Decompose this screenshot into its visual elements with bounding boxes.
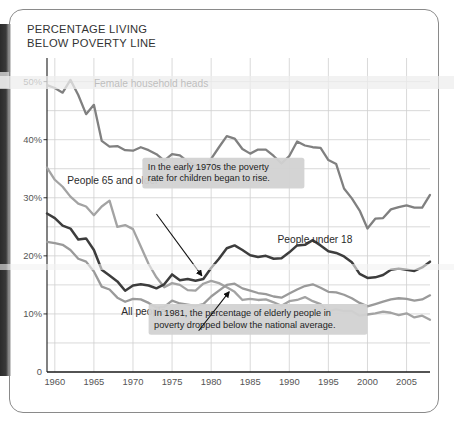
annotation-text: poverty dropped below the national avera… (154, 320, 335, 330)
x-axis-tick-label: 1980 (201, 376, 222, 387)
series-line (47, 80, 430, 229)
y-axis-tick-label: 10% (23, 308, 42, 319)
x-axis-tick-label: 1975 (162, 376, 183, 387)
x-axis-tick-label: 1995 (318, 376, 339, 387)
series-line (47, 168, 430, 320)
x-axis-tick-label: 1960 (44, 376, 65, 387)
series-line (47, 213, 430, 290)
series-line (47, 242, 430, 308)
chart-screenshot: PERCENTAGE LIVING BELOW POVERTY LINE 010… (0, 0, 454, 426)
series-label: Female household heads (94, 78, 208, 89)
x-axis-tick-label: 1985 (240, 376, 261, 387)
y-axis-tick-label: 20% (23, 250, 42, 261)
y-axis-tick-label: 30% (23, 192, 42, 203)
x-axis-tick-label: 2000 (357, 376, 378, 387)
x-axis-tick-label: 2005 (396, 376, 417, 387)
annotation-text: rate for children began to rise. (148, 173, 270, 183)
x-axis-tick-label: 1965 (83, 376, 104, 387)
y-axis-tick-label: 40% (23, 134, 42, 145)
annotation-text: In 1981, the percentage of elderly peopl… (154, 308, 331, 318)
annotation-arrow-icon (156, 214, 201, 276)
annotation-text: In the early 1970s the poverty (148, 162, 269, 172)
x-axis-tick-label: 1990 (279, 376, 300, 387)
y-axis-tick-label: 50% (23, 76, 42, 87)
poverty-line-chart: 010%20%30%40%50%196019651970197519801985… (0, 0, 454, 426)
x-axis-tick-label: 1970 (123, 376, 144, 387)
annotation-callout: In 1981, the percentage of elderly peopl… (149, 292, 368, 335)
y-axis-tick-label: 0 (37, 366, 42, 377)
series-label: People under 18 (278, 234, 353, 245)
